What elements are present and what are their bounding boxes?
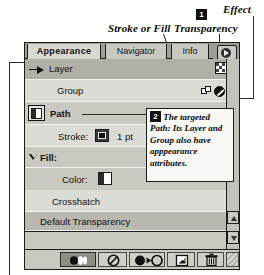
list-item-group[interactable]: Group — [25, 80, 239, 102]
group-transparency-icon[interactable] — [214, 86, 225, 97]
annotation-effect-label: Effect — [223, 3, 251, 15]
stroke-color-swatch[interactable] — [95, 129, 109, 142]
duplicate-page-icon — [168, 253, 196, 268]
list-item-color-label: Color: — [62, 174, 87, 185]
tab-navigator-label: Navigator — [117, 46, 156, 56]
circle-arrow-circle-icon — [130, 253, 166, 268]
annotation-stroke-or-fill: Stroke or Fill — [108, 22, 171, 34]
list-item-fill-label: Fill: — [40, 152, 57, 163]
trash-icon — [198, 253, 225, 268]
tab-info[interactable]: Info — [171, 44, 209, 59]
fill-color-swatch[interactable] — [98, 172, 112, 185]
list-item-default-transparency-label: Default Transparency — [40, 216, 130, 227]
tab-appearance[interactable]: Appearance — [27, 44, 101, 59]
stroke-color-swatch-inner — [98, 132, 106, 139]
annotation-effect: Effect — [223, 3, 251, 15]
tab-navigator[interactable]: Navigator — [105, 44, 167, 59]
scroll-up-arrow-icon — [231, 216, 237, 221]
scroll-down-arrow-icon — [231, 236, 237, 241]
badge-two-number: 2 — [150, 111, 161, 122]
callout-box-targeted-path: 2 The targeted Path: Its Layer and Group… — [146, 108, 234, 182]
callout-text: The targeted Path: Its Layer and Group a… — [150, 112, 222, 168]
tab-navigator-skew — [157, 44, 167, 59]
list-item-default-transparency[interactable]: Default Transparency — [25, 212, 239, 231]
path-thumbnail-inner — [31, 108, 42, 119]
checker-cell-2 — [222, 63, 225, 66]
leader-line-layer-vertical — [9, 62, 10, 275]
button-bar-spacer — [27, 252, 58, 267]
layer-target-arrow-icon — [37, 66, 44, 74]
delete-selected-item-button[interactable] — [197, 252, 224, 267]
list-item-crosshatch[interactable]: Crosshatch — [25, 190, 239, 212]
duplicate-selected-item-button[interactable] — [167, 252, 195, 267]
checker-cell-5 — [222, 69, 225, 72]
list-item-layer-label: Layer — [49, 63, 73, 74]
reduce-to-basic-appearance-button[interactable] — [129, 252, 165, 267]
list-item-path-label: Path — [50, 108, 71, 119]
palette-tab-strip: Appearance Navigator Info — [25, 43, 239, 59]
group-square-front — [205, 86, 211, 92]
annotation-transparency: Transparency — [174, 22, 238, 34]
no-symbol-icon — [99, 253, 128, 268]
scroll-up-button[interactable] — [227, 211, 239, 224]
path-thumbnail-dark-half — [32, 109, 36, 118]
leader-line-effect-vertical — [253, 16, 254, 99]
palette-menu-button[interactable] — [217, 45, 237, 60]
group-stroke-fill-icon[interactable] — [201, 86, 212, 96]
clear-appearance-button[interactable] — [98, 252, 127, 267]
annotation-stroke-or-fill-label: Stroke or Fill — [108, 22, 171, 34]
fill-color-swatch-dark-half — [99, 173, 104, 184]
list-empty-row[interactable] — [25, 231, 239, 251]
tab-info-skew — [199, 44, 209, 59]
list-item-crosshatch-label: Crosshatch — [52, 196, 100, 207]
list-item-layer[interactable]: Layer — [25, 59, 239, 80]
list-item-group-label: Group — [57, 85, 83, 96]
appearance-dots-icon — [61, 253, 97, 268]
palette-button-bar — [25, 249, 239, 269]
checker-cell-4 — [216, 69, 219, 72]
fill-disclosure-triangle-icon[interactable] — [29, 154, 38, 160]
tab-appearance-skew — [91, 44, 101, 59]
tab-info-label: Info — [182, 46, 197, 56]
annotation-transparency-label: Transparency — [174, 22, 238, 34]
badge-one-number: 1 — [196, 9, 207, 20]
path-thumbnail[interactable] — [28, 105, 45, 121]
group-transparency-slash — [215, 86, 225, 97]
list-item-stroke-label: Stroke: — [58, 131, 88, 142]
palette-menu-triangle-icon — [224, 50, 229, 56]
annotation-badge-one: 1 — [196, 4, 207, 22]
resize-grip[interactable] — [226, 252, 239, 267]
tab-appearance-label: Appearance — [37, 46, 92, 56]
list-item-stroke-weight: 1 pt — [117, 131, 133, 142]
scroll-down-button[interactable] — [227, 231, 239, 244]
new-art-maintains-appearance-button[interactable] — [60, 252, 96, 267]
